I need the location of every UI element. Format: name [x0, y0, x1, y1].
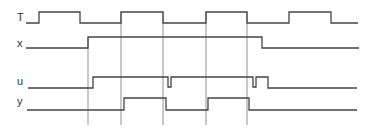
- signal-u: u: [17, 75, 357, 88]
- signal-label-T: T: [17, 11, 24, 23]
- vertical-guide-lines: [88, 12, 247, 125]
- signal-x: x: [17, 37, 359, 49]
- signal-label-u: u: [17, 75, 23, 87]
- signal-y: y: [17, 95, 357, 110]
- waveform-x: [26, 37, 359, 48]
- signal-label-y: y: [17, 95, 23, 107]
- timing-diagram: T x u y: [0, 0, 375, 131]
- signal-label-x: x: [17, 37, 23, 49]
- waveform-T: [26, 12, 358, 23]
- signal-T: T: [17, 11, 358, 23]
- waveform-y: [27, 98, 357, 110]
- waveform-u: [28, 77, 357, 88]
- signal-waveforms: T x u y: [17, 11, 359, 110]
